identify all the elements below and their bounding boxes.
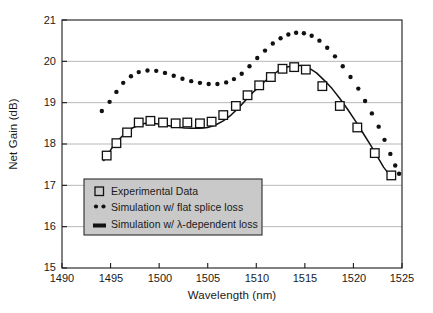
y-tick-label: 16: [26, 220, 56, 232]
x-tick-label: 1495: [89, 272, 133, 284]
y-tick-label: 21: [26, 14, 56, 26]
legend-marker-solid-bar: [93, 224, 106, 228]
x-tick-label: 1490: [40, 272, 84, 284]
y-tick-label: 18: [26, 137, 56, 149]
y-tick-label: 19: [26, 96, 56, 108]
chart-figure: Net Gain (dB) Wavelength (nm) 21 20 19 1…: [0, 0, 433, 313]
series-experimental-data: [102, 63, 395, 180]
series-simulation-flat-splice-loss: [100, 31, 402, 176]
x-tick-label: 1515: [283, 272, 327, 284]
x-tick-label: 1505: [186, 272, 230, 284]
y-tick-label: 17: [26, 179, 56, 191]
x-tick-label: 1525: [380, 272, 424, 284]
x-tick-label: 1520: [332, 272, 376, 284]
x-axis-title: Wavelength (nm): [62, 289, 402, 301]
x-tick-label: 1500: [138, 272, 182, 284]
x-tick-marks: [62, 263, 402, 268]
y-tick-label: 20: [26, 55, 56, 67]
y-axis-title: Net Gain (dB): [7, 74, 19, 194]
legend-label-experimental: Experimental Data: [111, 185, 198, 197]
y-tick-marks: [62, 20, 67, 268]
legend-label-lambda-dependent: Simulation w/ λ-dependent loss: [111, 218, 258, 230]
plot-area: [0, 0, 433, 313]
legend-label-flat-splice: Simulation w/ flat splice loss: [111, 201, 243, 213]
x-tick-label: 1510: [235, 272, 279, 284]
